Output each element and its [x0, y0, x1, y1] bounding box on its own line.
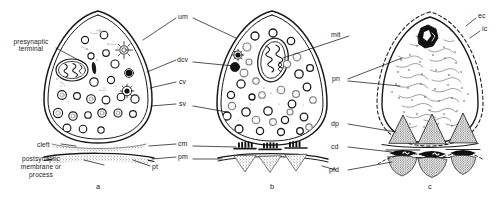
- label-presynaptic-terminal-line1: presynaptic: [14, 38, 49, 45]
- leader-pfd: [348, 162, 392, 170]
- leader-dcv-a: [147, 60, 176, 72]
- leader-pn-2: [348, 81, 400, 86]
- label-pn: pn: [332, 75, 340, 83]
- panel-letter-b: b: [270, 183, 274, 191]
- label-ec: ec: [478, 12, 486, 20]
- panel-a-cleft-material: [52, 144, 146, 152]
- label-pfd: pfd: [329, 166, 339, 174]
- label-postsynaptic-line2: membrane or: [21, 163, 61, 170]
- figure-container: presynaptic terminal cleft postsynaptic …: [0, 0, 501, 202]
- leader-ec: [466, 18, 476, 26]
- panel-letter-c: c: [428, 183, 432, 191]
- leader-um-a: [143, 18, 176, 40]
- label-cleft: cleft: [37, 141, 50, 148]
- panel-c-presynaptic-network: [396, 36, 461, 128]
- panel-a-dense-core-vesicle: [125, 69, 134, 78]
- label-pm: pm: [178, 153, 188, 161]
- label-postsynaptic-line1: postsynaptic: [22, 155, 60, 162]
- label-mit: mit: [331, 31, 341, 39]
- panel-a-drawing: [44, 11, 154, 165]
- leader-cleft: [61, 144, 76, 146]
- label-presynaptic-terminal-line2: terminal: [19, 45, 43, 52]
- leader-cv-a: [150, 82, 176, 88]
- label-postsynaptic-line3: process: [29, 171, 53, 178]
- panel-c-presynaptic-membrane: [382, 144, 478, 148]
- label-cv: cv: [179, 78, 186, 86]
- label-cm: cm: [178, 140, 188, 148]
- label-sv: sv: [179, 100, 186, 108]
- label-dcv: dcv: [177, 56, 188, 64]
- label-pt: pt: [152, 163, 158, 171]
- panel-a-dense-rod: [91, 62, 97, 74]
- leader-pm-a: [152, 157, 176, 159]
- label-ic: ic: [482, 25, 487, 33]
- panel-a-coated-pit: [116, 42, 133, 59]
- leader-pn-1: [348, 58, 402, 79]
- leader-sv-b: [193, 106, 227, 112]
- leader-sv-a: [151, 104, 176, 106]
- panel-b-drawing: [217, 11, 328, 173]
- panel-c-drawing: [377, 12, 484, 178]
- leader-ic: [470, 31, 480, 38]
- label-um: um: [178, 13, 188, 21]
- panel-c-dense-projections: [389, 113, 477, 144]
- panel-letter-a: a: [96, 183, 100, 191]
- leader-cm-a: [149, 144, 176, 146]
- panel-c-mitochondrion: [418, 25, 438, 48]
- leader-um-b: [193, 18, 236, 38]
- panel-b-postsynaptic-densities: [234, 155, 307, 173]
- label-postsynaptic-membrane-or-process: postsynaptic membrane or process: [2, 155, 80, 179]
- panel-b-dense-projections: [234, 141, 307, 150]
- label-cd: cd: [331, 143, 339, 151]
- leader-cd: [348, 147, 392, 152]
- panel-c-postsynaptic-fibrous-densities: [388, 155, 476, 177]
- label-dp: dp: [331, 120, 339, 128]
- leader-cm-b: [193, 146, 236, 147]
- label-presynaptic-terminal: presynaptic terminal: [5, 38, 57, 53]
